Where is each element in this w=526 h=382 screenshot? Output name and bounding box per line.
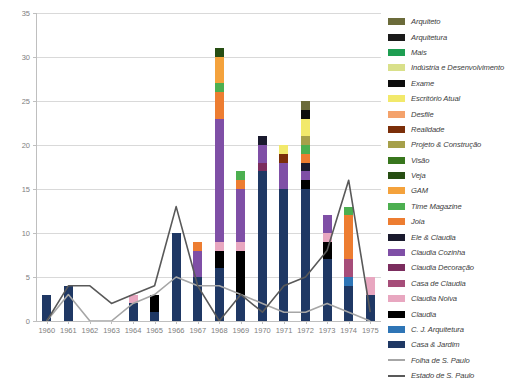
legend-color-swatch [388,49,405,56]
bar-segment[interactable] [258,136,267,145]
legend-item[interactable]: Joia [388,214,526,229]
bar-segment[interactable] [301,189,310,321]
bar-segment[interactable] [236,171,245,180]
bar-segment[interactable] [344,207,353,216]
bar-segment[interactable] [279,154,288,163]
legend-item[interactable]: Claudia [388,306,526,321]
bar-segment[interactable] [236,242,245,251]
legend-item[interactable]: GAM [388,183,526,198]
legend-item[interactable]: Projeto & Construção [388,137,526,152]
bar-segment[interactable] [301,119,310,137]
bar-segment[interactable] [215,48,224,57]
bar-segment[interactable] [258,145,267,163]
bar-segment[interactable] [344,259,353,277]
legend-item[interactable]: Time Magazine [388,199,526,214]
legend-item[interactable]: Ele & Claudia [388,229,526,244]
legend-item[interactable]: Estado de S. Paulo [388,368,526,382]
bar-group[interactable] [172,233,181,321]
bar-group[interactable] [150,295,159,321]
bar-segment[interactable] [301,101,310,110]
legend-color-swatch [388,157,405,164]
x-tick-label: 1961 [60,326,77,335]
bar-segment[interactable] [42,295,51,321]
bar-segment[interactable] [258,163,267,172]
bar-segment[interactable] [172,233,181,321]
bar-segment[interactable] [64,286,73,321]
bar-segment[interactable] [150,295,159,313]
legend-item[interactable]: C. J. Arquitetura [388,322,526,337]
bar-segment[interactable] [279,189,288,321]
bar-segment[interactable] [215,83,224,92]
legend-item[interactable]: Mais [388,45,526,60]
bar-segment[interactable] [129,303,138,321]
bar-segment[interactable] [236,251,245,295]
bar-segment[interactable] [301,171,310,180]
legend-item[interactable]: Veja [388,168,526,183]
legend-color-swatch [388,34,405,41]
bar-segment[interactable] [301,136,310,145]
bar-segment[interactable] [323,233,332,242]
bar-group[interactable] [323,215,332,321]
legend-item[interactable]: Folha de S. Paulo [388,353,526,368]
bar-segment[interactable] [193,277,202,321]
legend-color-swatch [388,111,405,118]
bar-group[interactable] [366,277,375,321]
bar-segment[interactable] [150,312,159,321]
bar-segment[interactable] [344,215,353,259]
bar-segment[interactable] [215,119,224,242]
bar-segment[interactable] [301,110,310,119]
bar-segment[interactable] [215,242,224,251]
bar-segment[interactable] [215,268,224,321]
legend-item-label: Arquitetura [411,33,447,42]
bar-segment[interactable] [236,180,245,189]
legend-item[interactable]: Realidade [388,122,526,137]
bar-group[interactable] [215,48,224,321]
bar-segment[interactable] [344,277,353,286]
bar-segment[interactable] [301,154,310,163]
bar-group[interactable] [129,295,138,321]
bar-segment[interactable] [366,295,375,321]
bar-segment[interactable] [215,57,224,83]
bar-segment[interactable] [366,277,375,295]
bar-group[interactable] [344,207,353,321]
legend-item[interactable]: Desfile [388,106,526,121]
bar-group[interactable] [301,101,310,321]
bar-segment[interactable] [279,145,288,154]
x-tick-label: 1975 [362,326,379,335]
bar-segment[interactable] [236,189,245,242]
legend-item[interactable]: Indústria e Desenvolvimento [388,60,526,75]
bar-segment[interactable] [193,242,202,251]
bar-segment[interactable] [323,215,332,233]
bar-segment[interactable] [215,92,224,118]
legend-item[interactable]: Exame [388,76,526,91]
bar-group[interactable] [236,171,245,321]
legend-item[interactable]: Claudia Cozinha [388,245,526,260]
bar-group[interactable] [64,286,73,321]
bar-segment[interactable] [301,163,310,172]
bar-segment[interactable] [193,251,202,277]
legend-item[interactable]: Casa & Jardim [388,337,526,352]
bar-segment[interactable] [301,145,310,154]
bar-segment[interactable] [236,295,245,321]
legend-item[interactable]: Visão [388,153,526,168]
bar-group[interactable] [279,145,288,321]
bar-segment[interactable] [279,163,288,189]
legend-item[interactable]: Arquiteto [388,14,526,29]
legend-color-swatch [388,280,405,287]
bar-segment[interactable] [323,242,332,260]
bar-segment[interactable] [344,286,353,321]
legend-item[interactable]: Claudia Decoração [388,260,526,275]
legend-item[interactable]: Casa de Claudia [388,276,526,291]
legend-item[interactable]: Arquitetura [388,29,526,44]
bar-segment[interactable] [215,251,224,269]
bar-group[interactable] [193,242,202,321]
bar-segment[interactable] [129,295,138,304]
legend-item[interactable]: Escritório Atual [388,91,526,106]
bar-group[interactable] [258,136,267,321]
x-tick-mark [241,321,242,324]
bar-segment[interactable] [323,259,332,321]
bar-segment[interactable] [301,180,310,189]
legend-item[interactable]: Claudia Noiva [388,291,526,306]
bar-group[interactable] [42,295,51,321]
bar-segment[interactable] [258,171,267,321]
